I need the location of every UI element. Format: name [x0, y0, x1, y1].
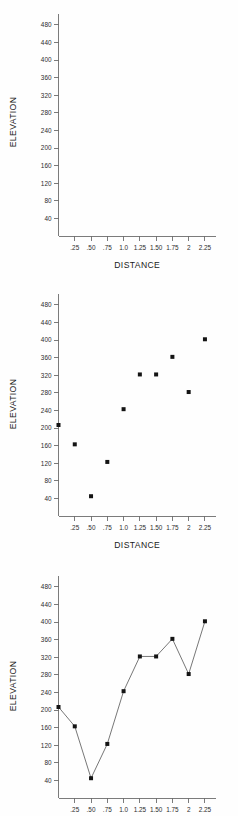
y-tick-label: 320 — [41, 92, 52, 99]
y-tick-label: 480 — [41, 301, 52, 308]
x-tick-label: .25 — [70, 244, 79, 251]
y-tick-label: 40 — [44, 215, 52, 222]
y-axis-ticks: 4080120160200240280320360400440480 — [41, 21, 59, 221]
x-tick-label: .75 — [103, 524, 112, 531]
x-tick-label: 1.25 — [134, 524, 147, 531]
data-point-marker — [73, 724, 77, 728]
data-point-marker — [73, 442, 77, 446]
data-point-marker — [122, 689, 126, 693]
x-tick-label: .25 — [70, 524, 79, 531]
y-tick-label: 480 — [41, 583, 52, 590]
data-point-marker — [105, 742, 109, 746]
x-tick-label: 2 — [187, 244, 191, 251]
x-tick-label: 1.25 — [134, 244, 147, 251]
x-tick-label: 1.0 — [119, 524, 128, 531]
x-tick-label: .50 — [87, 524, 96, 531]
y-tick-label: 120 — [41, 742, 52, 749]
data-point-marker — [187, 672, 191, 676]
y-tick-label: 400 — [41, 336, 52, 343]
y-tick-label: 280 — [41, 109, 52, 116]
x-tick-label: 1.50 — [150, 244, 163, 251]
x-tick-label: 1.75 — [166, 244, 179, 251]
data-point-group — [57, 619, 207, 780]
y-tick-label: 200 — [41, 144, 52, 151]
x-tick-label: 1.50 — [150, 524, 163, 531]
x-tick-label: .75 — [103, 244, 112, 251]
y-tick-label: 240 — [41, 127, 52, 134]
chart-panel-scatter: 4080120160200240280320360400440480.25.50… — [0, 278, 238, 560]
y-tick-label: 360 — [41, 74, 52, 81]
data-point-marker — [154, 654, 158, 658]
y-tick-label: 80 — [44, 759, 52, 766]
y-tick-label: 120 — [41, 460, 52, 467]
data-point-marker — [187, 390, 191, 394]
data-point-marker — [105, 460, 109, 464]
y-tick-label: 360 — [41, 636, 52, 643]
y-tick-label: 280 — [41, 671, 52, 678]
data-point-marker — [138, 654, 142, 658]
y-tick-label: 480 — [41, 21, 52, 28]
data-point-marker — [203, 619, 207, 623]
x-tick-label: 1.50 — [150, 806, 163, 813]
x-tick-label: .50 — [87, 806, 96, 813]
y-tick-label: 240 — [41, 407, 52, 414]
chart-panel-line: 4080120160200240280320360400440480.25.50… — [0, 560, 238, 816]
chart-panel-empty-axes: 4080120160200240280320360400440480.25.50… — [0, 0, 238, 278]
data-point-marker — [203, 337, 207, 341]
y-axis-title: ELEVATION — [8, 661, 18, 712]
y-tick-label: 80 — [44, 477, 52, 484]
y-tick-label: 240 — [41, 689, 52, 696]
data-point-marker — [154, 372, 158, 376]
y-tick-label: 200 — [41, 424, 52, 431]
x-tick-label: .25 — [70, 806, 79, 813]
y-tick-label: 160 — [41, 162, 52, 169]
x-tick-label: 2.25 — [199, 806, 212, 813]
y-tick-label: 40 — [44, 777, 52, 784]
y-tick-label: 400 — [41, 56, 52, 63]
axis-spines — [59, 14, 217, 236]
data-point-marker — [89, 776, 93, 780]
data-point-marker — [89, 494, 93, 498]
x-axis-title: DISTANCE — [114, 260, 160, 270]
x-axis-ticks: .25.50.751.01.251.501.7522.25 — [70, 798, 211, 813]
x-tick-label: 1.25 — [134, 806, 147, 813]
y-tick-label: 280 — [41, 389, 52, 396]
x-tick-label: 1.75 — [166, 524, 179, 531]
y-tick-label: 360 — [41, 354, 52, 361]
y-tick-label: 80 — [44, 197, 52, 204]
y-axis-ticks: 4080120160200240280320360400440480 — [41, 301, 59, 501]
x-tick-label: 2 — [187, 524, 191, 531]
y-tick-label: 440 — [41, 39, 52, 46]
y-tick-label: 40 — [44, 495, 52, 502]
y-tick-label: 160 — [41, 724, 52, 731]
x-axis-ticks: .25.50.751.01.251.501.7522.25 — [70, 516, 211, 531]
figure-page: 4080120160200240280320360400440480.25.50… — [0, 0, 238, 816]
axis-spines — [59, 576, 217, 798]
x-tick-label: .75 — [103, 806, 112, 813]
y-axis-title: ELEVATION — [8, 379, 18, 430]
y-axis-title: ELEVATION — [8, 97, 18, 148]
x-tick-label: 1.0 — [119, 806, 128, 813]
data-point-marker — [138, 372, 142, 376]
data-point-marker — [170, 637, 174, 641]
data-point-marker — [57, 423, 61, 427]
x-tick-label: 1.0 — [119, 244, 128, 251]
data-point-group — [57, 337, 207, 498]
x-axis-title: DISTANCE — [114, 540, 160, 550]
plot-scatter-plot: 4080120160200240280320360400440480.25.50… — [0, 278, 238, 560]
y-tick-label: 200 — [41, 706, 52, 713]
y-tick-label: 120 — [41, 180, 52, 187]
y-tick-label: 400 — [41, 618, 52, 625]
data-point-marker — [122, 407, 126, 411]
y-tick-label: 440 — [41, 601, 52, 608]
x-tick-label: 2.25 — [199, 244, 212, 251]
y-tick-label: 440 — [41, 319, 52, 326]
x-tick-label: 1.75 — [166, 806, 179, 813]
axis-spines — [59, 294, 217, 516]
plot-line-plot: 4080120160200240280320360400440480.25.50… — [0, 560, 238, 816]
x-axis-ticks: .25.50.751.01.251.501.7522.25 — [70, 236, 211, 251]
x-tick-label: 2 — [187, 806, 191, 813]
data-point-marker — [170, 355, 174, 359]
y-tick-label: 320 — [41, 372, 52, 379]
data-point-marker — [57, 705, 61, 709]
